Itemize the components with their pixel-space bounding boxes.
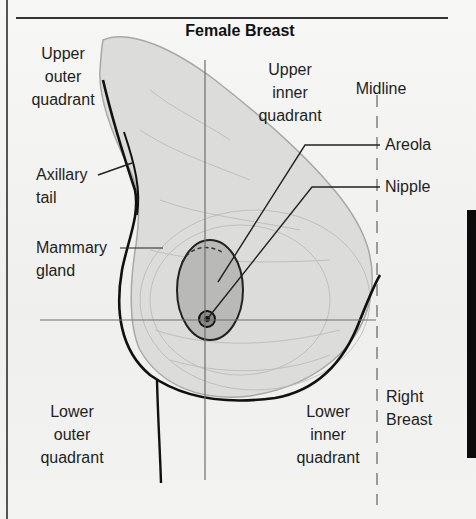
label-axillary-tail: Axillary tail (36, 163, 88, 209)
label-areola: Areola (385, 133, 431, 156)
label-lower-inner-quadrant: Lower inner quadrant (283, 400, 373, 469)
label-upper-inner-quadrant: Upper inner quadrant (245, 58, 335, 127)
label-nipple: Nipple (385, 175, 430, 198)
label-mammary-gland: Mammary gland (36, 236, 107, 282)
chest-wall-line (157, 380, 161, 483)
diagram-title: Female Breast (130, 22, 350, 40)
label-upper-outer-quadrant: Upper outer quadrant (20, 42, 106, 111)
label-right-breast: Right Breast (386, 385, 432, 431)
label-lower-outer-quadrant: Lower outer quadrant (26, 400, 118, 469)
label-midline: Midline (348, 77, 414, 100)
